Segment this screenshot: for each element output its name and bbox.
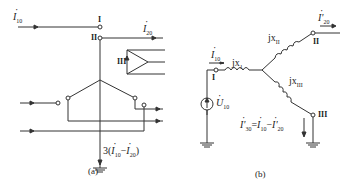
caption-b: (b) bbox=[255, 170, 266, 179]
current-in-label-b: I10 bbox=[211, 50, 220, 62]
node-I-label-a: I bbox=[98, 16, 101, 24]
ground-current-label: 3(I10−I20) bbox=[103, 146, 139, 158]
reactance-3-label: jxIII bbox=[289, 76, 303, 88]
reactance-2-label: jxII bbox=[268, 33, 280, 45]
node-II-label-b: II bbox=[313, 38, 319, 46]
current-out-label-a: I20 bbox=[143, 24, 152, 36]
current-out-label-b: I'20 bbox=[318, 13, 329, 25]
node-I-label-b: I bbox=[212, 74, 215, 82]
node-III-label-a: III bbox=[117, 58, 126, 66]
current-in-label-a: I10 bbox=[13, 12, 22, 24]
kcl-equation: I'30=I10−I'20 bbox=[240, 120, 284, 132]
source-voltage-label: U10 bbox=[216, 98, 229, 110]
node-III-label-b: III bbox=[318, 111, 327, 119]
circuit-diagram bbox=[0, 0, 354, 188]
node-II-label-a: II bbox=[91, 34, 97, 42]
caption-a: (a) bbox=[88, 167, 98, 176]
reactance-1-label: jx1 bbox=[232, 58, 243, 70]
